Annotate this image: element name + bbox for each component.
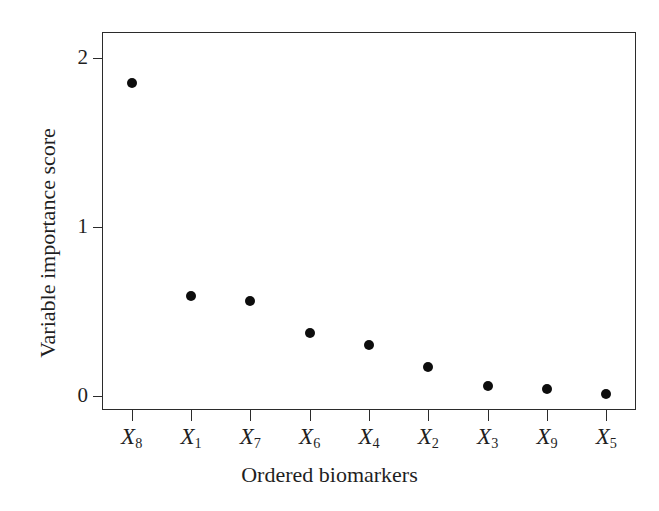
x-tick-label-base: X bbox=[596, 424, 610, 449]
x-tick-label-base: X bbox=[180, 424, 194, 449]
x-tick-label-base: X bbox=[358, 424, 372, 449]
x-tick-label-subscript: 5 bbox=[610, 435, 617, 451]
x-axis-tick-label: X2 bbox=[398, 425, 458, 451]
x-axis-tick-mark bbox=[488, 410, 489, 421]
y-axis-tick-mark bbox=[93, 227, 102, 228]
x-axis-tick-label: X7 bbox=[220, 425, 280, 451]
x-tick-label-base: X bbox=[536, 424, 550, 449]
x-axis-tick-mark bbox=[428, 410, 429, 421]
x-axis-tick-label: X8 bbox=[102, 425, 162, 451]
x-axis-tick-mark bbox=[369, 410, 370, 421]
y-axis-tick-mark bbox=[93, 396, 102, 397]
x-tick-label-subscript: 3 bbox=[491, 435, 498, 451]
x-axis-tick-mark bbox=[132, 410, 133, 421]
x-tick-label-subscript: 6 bbox=[313, 435, 320, 451]
x-axis-tick-label: X6 bbox=[280, 425, 340, 451]
x-axis-tick-label: X1 bbox=[161, 425, 221, 451]
x-tick-label-base: X bbox=[477, 424, 491, 449]
x-tick-label-base: X bbox=[299, 424, 313, 449]
x-tick-label-base: X bbox=[240, 424, 254, 449]
x-tick-label-subscript: 7 bbox=[254, 435, 261, 451]
x-tick-label-subscript: 8 bbox=[135, 435, 142, 451]
figure-canvas: 012 X8X1X7X6X4X2X3X9X5 Ordered biomarker… bbox=[0, 0, 659, 511]
y-axis-title-wrap: Variable importance score bbox=[35, 53, 65, 433]
y-axis-title: Variable importance score bbox=[35, 128, 60, 358]
x-axis-tick-mark bbox=[250, 410, 251, 421]
plot-frame bbox=[102, 32, 636, 410]
x-tick-label-subscript: 9 bbox=[550, 435, 557, 451]
x-axis-tick-label: X5 bbox=[576, 425, 636, 451]
y-axis-tick-mark bbox=[93, 58, 102, 59]
x-tick-label-subscript: 4 bbox=[372, 435, 379, 451]
x-axis-tick-mark bbox=[606, 410, 607, 421]
x-axis-tick-label: X3 bbox=[458, 425, 518, 451]
x-tick-label-subscript: 1 bbox=[194, 435, 201, 451]
x-axis-tick-mark bbox=[547, 410, 548, 421]
x-axis-tick-mark bbox=[191, 410, 192, 421]
x-axis-title: Ordered biomarkers bbox=[0, 462, 659, 488]
x-axis-tick-mark bbox=[310, 410, 311, 421]
x-tick-label-base: X bbox=[121, 424, 135, 449]
x-tick-label-subscript: 2 bbox=[432, 435, 439, 451]
x-axis-tick-label: X9 bbox=[517, 425, 577, 451]
x-axis-tick-label: X4 bbox=[339, 425, 399, 451]
x-tick-label-base: X bbox=[418, 424, 432, 449]
